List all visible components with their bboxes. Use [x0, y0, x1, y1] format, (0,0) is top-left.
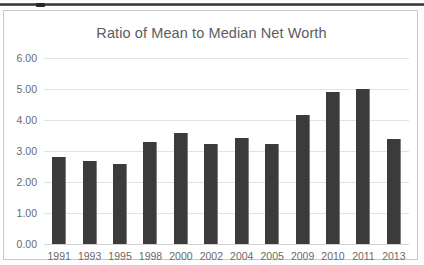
x-axis-tick-label: 2013 [382, 250, 405, 262]
bar-slot: 1998 [135, 58, 165, 244]
x-axis-tick-label: 2005 [260, 250, 283, 262]
bar [204, 144, 218, 244]
bar [83, 161, 97, 244]
bar-slot: 1991 [44, 58, 74, 244]
bar-slot: 2013 [379, 58, 409, 244]
bar-slot: 2009 [287, 58, 317, 244]
y-axis-tick-label: 6.00 [17, 52, 37, 64]
page-top-rule [0, 3, 424, 6]
plot-area: 6.005.004.003.002.001.000.00 19911993199… [44, 58, 409, 244]
y-axis-tick-label: 4.00 [17, 114, 37, 126]
bar [235, 138, 249, 244]
x-axis-tick-label: 2004 [230, 250, 253, 262]
x-axis-tick-label: 1991 [48, 250, 71, 262]
y-axis-tick-label: 2.00 [17, 176, 37, 188]
x-axis-tick-label: 2011 [352, 250, 375, 262]
bar-slot: 2010 [318, 58, 348, 244]
bar-slot: 2000 [166, 58, 196, 244]
y-axis-tick-label: 0.00 [17, 238, 37, 250]
bar-slot: 2002 [196, 58, 226, 244]
bar-slot: 1995 [105, 58, 135, 244]
bar-slot: 2005 [257, 58, 287, 244]
scan-speck [36, 3, 45, 7]
chart-screenshot: Ratio of Mean to Median Net Worth 6.005.… [0, 0, 424, 265]
x-axis-tick-label: 2010 [321, 250, 344, 262]
bar [113, 164, 127, 244]
y-axis-tick-label: 1.00 [17, 207, 37, 219]
bar [296, 115, 310, 244]
x-axis-tick-label: 1993 [78, 250, 101, 262]
bar [143, 142, 157, 244]
chart-title: Ratio of Mean to Median Net Worth [4, 25, 419, 41]
x-axis-tick-label: 1995 [108, 250, 131, 262]
chart-frame: Ratio of Mean to Median Net Worth 6.005.… [3, 10, 418, 260]
y-axis-tick-label: 5.00 [17, 83, 37, 95]
bar [326, 92, 340, 244]
bar [265, 144, 279, 244]
bar [387, 139, 401, 244]
bar [174, 133, 188, 244]
bar-slot: 2011 [348, 58, 378, 244]
bar-slot: 1993 [74, 58, 104, 244]
bar-series: 1991199319951998200020022004200520092010… [44, 58, 409, 244]
gridline: 0.00 [44, 244, 409, 245]
x-axis-tick-label: 2009 [291, 250, 314, 262]
x-axis-tick-label: 1998 [139, 250, 162, 262]
y-axis-tick-label: 3.00 [17, 145, 37, 157]
bar-slot: 2004 [227, 58, 257, 244]
x-axis-tick-label: 2000 [169, 250, 192, 262]
bar [52, 157, 66, 244]
bar [356, 89, 370, 244]
x-axis-tick-label: 2002 [200, 250, 223, 262]
